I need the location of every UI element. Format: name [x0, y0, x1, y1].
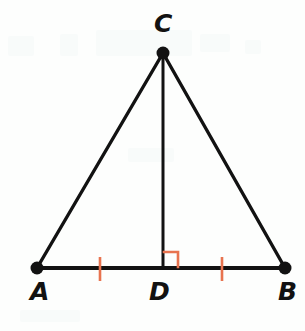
- right-angle-marker-icon: [164, 252, 178, 267]
- side-CB: [163, 53, 285, 268]
- vertex-dot-C: [157, 47, 170, 60]
- vertex-label-D: D: [149, 279, 170, 304]
- vertex-label-A: A: [30, 279, 49, 304]
- vertex-dot-B: [279, 262, 292, 275]
- side-AC: [37, 53, 163, 268]
- vertex-dot-A: [31, 262, 44, 275]
- vertex-label-C: C: [154, 11, 172, 36]
- vertex-label-B: B: [278, 279, 297, 304]
- geometry-figure: C A D B: [0, 0, 305, 331]
